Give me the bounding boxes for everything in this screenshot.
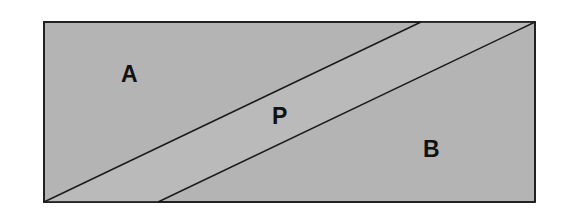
region-label-b: B bbox=[423, 136, 440, 162]
region-label-p: P bbox=[272, 103, 287, 129]
region-label-a: A bbox=[121, 61, 138, 87]
strip-diagram: A P B bbox=[0, 0, 571, 214]
